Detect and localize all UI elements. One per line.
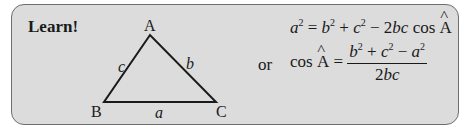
exp: 2	[388, 41, 393, 52]
equals-sign: =	[333, 52, 343, 71]
angle-a-hat: A	[317, 52, 329, 72]
side-label-a: a	[155, 104, 163, 122]
exp: 2	[420, 41, 425, 52]
fraction: b2 + c2 − a2 2bc	[347, 41, 427, 85]
vertex-label-b: B	[91, 103, 102, 121]
cos-a-formula: cos A = b2 + c2 − a2 2bc	[290, 41, 427, 85]
denominator: 2bc	[347, 64, 427, 85]
exp: 2	[361, 17, 366, 28]
var-c: c	[353, 18, 361, 37]
or-connector: or	[258, 55, 272, 75]
vertex-label-a: A	[144, 17, 156, 35]
exp: 2	[299, 17, 304, 28]
var-bc: bc	[383, 65, 399, 84]
numerator: b2 + c2 − a2	[347, 41, 427, 64]
vertex-label-c: C	[216, 103, 227, 121]
cos-function: cos	[290, 52, 313, 71]
var-a: a	[290, 18, 299, 37]
var-bc: bc	[392, 18, 408, 37]
var-a: a	[412, 42, 421, 61]
minus-sign: −	[398, 42, 408, 61]
plus-sign: +	[339, 18, 349, 37]
var-b: b	[349, 42, 358, 61]
plus-sign: +	[367, 42, 377, 61]
var-b: b	[322, 18, 331, 37]
side-label-b: b	[186, 55, 194, 73]
side-label-c: c	[118, 58, 125, 76]
equals-sign: =	[308, 18, 318, 37]
cos-function: cos	[413, 18, 436, 37]
minus-sign: −	[370, 18, 380, 37]
exp: 2	[330, 17, 335, 28]
angle-a-hat: A	[440, 18, 452, 38]
cosine-rule-formula: a2 = b2 + c2 − 2bc cos A	[290, 17, 452, 38]
exp: 2	[358, 41, 363, 52]
